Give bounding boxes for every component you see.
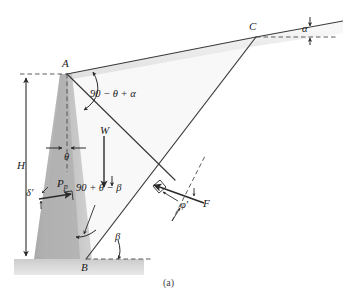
- reaction-force-group: [153, 180, 204, 221]
- force-label-F: F: [203, 198, 210, 209]
- diagram-svg: [0, 0, 343, 303]
- ground-base-fill: [14, 259, 144, 275]
- beta-angle-arc: [118, 240, 120, 259]
- figure-container: A B C H α θ β δ′ φ′ 90 − θ + α 90 + θ − …: [0, 0, 343, 303]
- point-label-C: C: [249, 21, 256, 32]
- failure-plane-normal-dashed: [172, 156, 205, 221]
- force-label-Pp-main: P: [57, 177, 64, 189]
- normal-direction-arrow: [172, 208, 180, 221]
- wall-angle-expression: 90 − θ + α: [90, 89, 136, 100]
- figure-caption: (a): [163, 277, 174, 288]
- force-label-Pp: Pp: [57, 178, 68, 191]
- angle-label-phi-prime: φ′: [180, 200, 188, 211]
- reaction-force-arrow-F: [154, 185, 204, 203]
- force-label-Pp-sub: p: [64, 182, 68, 191]
- point-label-A: A: [62, 58, 69, 69]
- angle-label-delta-prime: δ′: [26, 188, 33, 199]
- angle-label-theta: θ: [64, 152, 69, 163]
- beta-angle-group: [118, 240, 120, 259]
- angle-label-alpha: α: [302, 24, 308, 35]
- wedge-angle-expression: 90 + θ − β: [76, 183, 122, 194]
- height-label-H: H: [17, 160, 25, 171]
- force-label-W: W: [100, 125, 109, 136]
- point-label-B: B: [81, 262, 88, 273]
- angle-label-beta: β: [115, 232, 120, 243]
- soil-wedge-fill: [67, 37, 256, 259]
